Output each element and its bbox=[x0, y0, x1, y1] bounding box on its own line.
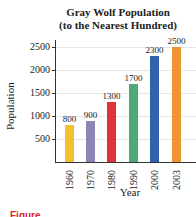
y-tick-label: 2000 bbox=[18, 65, 50, 75]
bar-value-label: 1300 bbox=[97, 92, 127, 101]
bar-value-label: 900 bbox=[76, 111, 106, 120]
y-tick-label: 1000 bbox=[18, 111, 50, 121]
bar-1970 bbox=[86, 121, 95, 162]
bar-1990 bbox=[129, 84, 138, 162]
x-tick-label: 2003 bbox=[171, 170, 182, 190]
x-tick-label: 1980 bbox=[106, 170, 117, 190]
y-tick-label: 2500 bbox=[18, 42, 50, 52]
x-tick-label: 1990 bbox=[128, 170, 139, 190]
y-tick-mark bbox=[52, 70, 55, 71]
bar-1960 bbox=[65, 125, 74, 162]
y-tick-label: 1500 bbox=[18, 88, 50, 98]
bar-value-label: 1700 bbox=[119, 74, 149, 83]
bar-2003 bbox=[172, 47, 181, 162]
bar-2000 bbox=[150, 56, 159, 162]
y-axis bbox=[55, 40, 56, 162]
y-tick-mark bbox=[52, 93, 55, 94]
y-axis-label: Population bbox=[4, 82, 16, 130]
y-tick-label: 500 bbox=[18, 134, 50, 144]
x-axis bbox=[55, 162, 196, 163]
bar-value-label: 2500 bbox=[162, 37, 192, 46]
chart-subtitle: (to the Nearest Hundred) bbox=[40, 19, 196, 32]
x-tick-label: 2000 bbox=[149, 170, 160, 190]
x-tick-label: 1970 bbox=[85, 170, 96, 190]
x-tick-label: 1960 bbox=[64, 170, 75, 190]
bar-value-label: 2300 bbox=[140, 46, 170, 55]
y-tick-mark bbox=[52, 47, 55, 48]
bar-1980 bbox=[107, 102, 116, 162]
y-tick-mark bbox=[52, 139, 55, 140]
chart-title-line1: Gray Wolf Population bbox=[40, 6, 196, 19]
figure-caption: Figure bbox=[10, 210, 41, 217]
